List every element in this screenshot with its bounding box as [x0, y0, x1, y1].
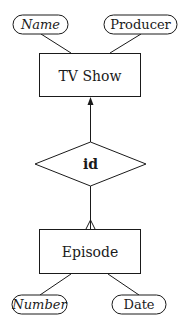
connector-episode-date: [108, 274, 139, 295]
connector-episode-number: [40, 274, 71, 295]
entity-tvshow-label: TV Show: [40, 54, 140, 97]
attribute-number-label: Number: [12, 295, 67, 314]
attribute-name-label: Name: [13, 15, 68, 34]
connector-name-tvshow: [41, 34, 71, 53]
entity-episode-label: Episode: [40, 230, 140, 274]
er-diagram: Name Producer TV Show id Episode Number …: [0, 0, 187, 330]
connector-producer-tvshow: [110, 34, 141, 53]
relationship-id-label: id: [60, 154, 121, 174]
attribute-date-label: Date: [112, 295, 166, 314]
arrowhead-icon: [88, 97, 94, 105]
attribute-producer-label: Producer: [104, 15, 177, 34]
